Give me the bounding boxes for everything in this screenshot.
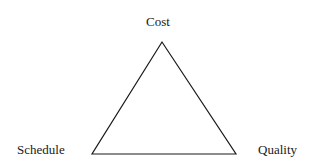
label-schedule: Schedule bbox=[17, 143, 65, 156]
project-triangle bbox=[92, 42, 236, 154]
label-cost: Cost bbox=[146, 15, 170, 28]
label-quality: Quality bbox=[258, 143, 297, 156]
